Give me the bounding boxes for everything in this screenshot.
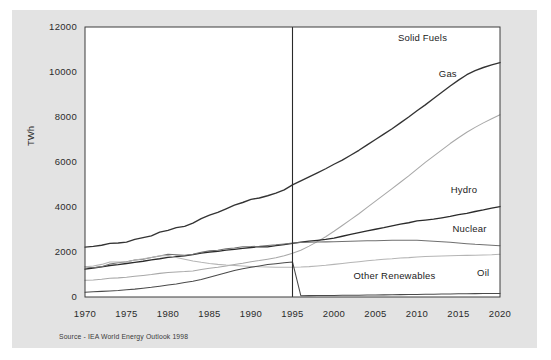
y-axis-tick-labels: 020004000600080001000012000 <box>49 21 77 302</box>
x-tick-label: 2020 <box>489 308 511 319</box>
x-tick-label: 1990 <box>240 308 262 319</box>
x-axis-tick-labels: 1970197519801985199019952000200520102015… <box>74 308 511 319</box>
x-tick-label: 1985 <box>198 308 220 319</box>
series-label-hydro: Hydro <box>451 184 477 195</box>
y-tick-label: 2000 <box>55 246 77 257</box>
series-label-oil: Oil <box>477 267 489 278</box>
x-tick-label: 2010 <box>406 308 428 319</box>
series-label-other-renewables: Other Renewables <box>354 270 436 281</box>
series-label-nuclear: Nuclear <box>453 223 487 234</box>
y-axis-title: TWh <box>25 126 36 146</box>
y-tick-label: 8000 <box>55 111 77 122</box>
x-tick-label: 1975 <box>115 308 137 319</box>
chart-card: 020004000600080001000012000 197019751980… <box>12 10 537 348</box>
series-label-solid-fuels: Solid Fuels <box>398 32 447 43</box>
x-tick-label: 2000 <box>323 308 345 319</box>
y-tick-label: 4000 <box>55 201 77 212</box>
x-tick-label: 1970 <box>74 308 96 319</box>
y-tick-label: 12000 <box>49 21 77 32</box>
series-label-gas: Gas <box>439 68 457 79</box>
y-tick-label: 0 <box>71 291 77 302</box>
source-note: Source - IEA World Energy Outlook 1998 <box>59 333 188 341</box>
y-tick-label: 6000 <box>55 156 77 167</box>
energy-outlook-line-chart: 020004000600080001000012000 197019751980… <box>12 10 537 348</box>
figure-root: 020004000600080001000012000 197019751980… <box>0 0 551 360</box>
x-tick-label: 1980 <box>157 308 179 319</box>
x-tick-label: 1995 <box>281 308 303 319</box>
x-tick-label: 2015 <box>447 308 469 319</box>
y-tick-label: 10000 <box>49 66 77 77</box>
x-tick-label: 2005 <box>364 308 386 319</box>
